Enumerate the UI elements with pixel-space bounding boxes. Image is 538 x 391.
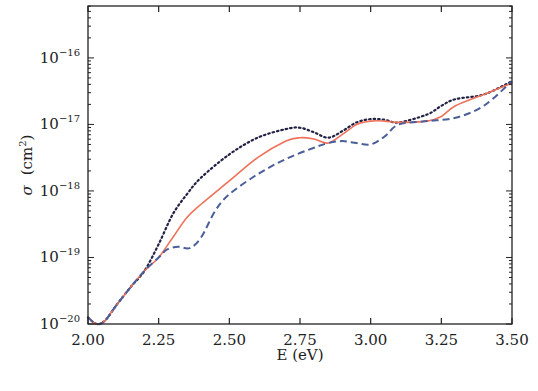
plot-frame xyxy=(88,6,512,324)
y-axis-title: σ (cm2) xyxy=(17,135,36,196)
y-tick-label: 10−19 xyxy=(40,246,80,266)
x-tick-label: 2.25 xyxy=(142,331,175,349)
axis-ticks xyxy=(88,6,512,324)
x-tick-label: 3.00 xyxy=(354,331,387,349)
series-layer xyxy=(88,81,512,324)
x-tick-label: 3.50 xyxy=(495,331,528,349)
y-tick-label: 10−16 xyxy=(40,47,80,67)
y-tick-label: 10−17 xyxy=(40,113,80,133)
y-tick-label: 10−18 xyxy=(40,180,80,200)
x-tick-label: 2.00 xyxy=(71,331,104,349)
y-tick-labels: 10−2010−1910−1810−1710−16 xyxy=(40,47,80,333)
x-tick-label: 3.25 xyxy=(425,331,458,349)
series-dashed xyxy=(88,81,512,324)
series-dotted xyxy=(88,81,512,324)
x-axis-title: E (eV) xyxy=(276,346,323,364)
y-tick-label: 10−20 xyxy=(40,313,80,333)
cross-section-chart: 2.002.252.502.753.003.253.50 10−2010−191… xyxy=(0,0,538,391)
x-tick-label: 2.50 xyxy=(213,331,246,349)
